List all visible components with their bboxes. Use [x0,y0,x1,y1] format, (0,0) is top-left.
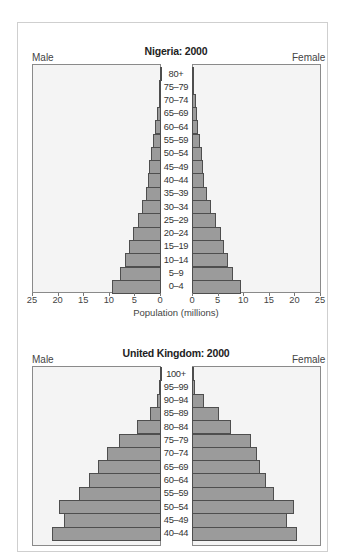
female-bar[interactable] [192,240,224,254]
male-bar[interactable] [148,173,161,187]
female-label: Female [292,52,325,63]
age-group-label: 70–74 [160,95,192,105]
female-bar[interactable] [192,267,233,281]
male-bar[interactable] [138,213,161,227]
female-bar[interactable] [192,67,194,81]
female-bar[interactable] [192,513,287,527]
age-group-label: 0–4 [160,281,192,291]
female-bar[interactable] [192,473,266,487]
x-tick-label: 0 [189,295,194,305]
female-bar[interactable] [192,107,197,121]
female-bar[interactable] [192,447,257,461]
male-bar[interactable] [133,227,161,241]
x-tick-label: 15 [264,295,274,305]
age-group-label: 85–89 [160,408,192,418]
female-bar[interactable] [192,213,216,227]
age-group-label: 40–44 [160,175,192,185]
x-tick-label: 5 [132,295,137,305]
female-bar[interactable] [192,200,211,214]
female-bar[interactable] [192,394,204,408]
male-bar[interactable] [120,267,161,281]
female-bar[interactable] [192,460,260,474]
female-bar[interactable] [192,253,228,267]
female-bar[interactable] [192,147,202,161]
female-bar[interactable] [192,94,196,108]
male-bar[interactable] [129,240,161,254]
age-group-label: 45–49 [160,515,192,525]
female-bar[interactable] [192,434,251,448]
age-group-label: 90–94 [160,395,192,405]
age-group-label: 65–69 [160,462,192,472]
age-group-label: 55–59 [160,135,192,145]
male-label: Male [32,52,54,63]
female-bar[interactable] [192,120,198,134]
x-tick-label: 20 [289,295,299,305]
male-bar[interactable] [89,473,161,487]
female-bar[interactable] [192,134,200,148]
x-tick-label: 25 [315,295,325,305]
x-tick-label: 0 [157,295,162,305]
female-bar[interactable] [192,80,194,94]
age-group-label: 25–29 [160,215,192,225]
age-group-label: 80–84 [160,422,192,432]
male-bar[interactable] [112,280,161,294]
male-bar[interactable] [125,253,161,267]
x-tick-label: 10 [104,295,114,305]
female-bar[interactable] [192,487,274,501]
x-tick-label: 20 [52,295,62,305]
age-group-label: 35–39 [160,188,192,198]
age-group-label: 60–64 [160,475,192,485]
male-bar[interactable] [64,513,161,527]
female-bar[interactable] [192,500,294,514]
male-label: Male [32,354,54,365]
female-bar[interactable] [192,420,231,434]
age-group-label: 40–44 [160,528,192,538]
age-group-label: 80+ [160,69,192,79]
x-tick-label: 25 [27,295,37,305]
female-bar[interactable] [192,407,219,421]
x-axis-label: Population (millions) [0,307,345,318]
x-tick-label: 5 [215,295,220,305]
male-bar[interactable] [119,434,161,448]
male-bar[interactable] [79,487,161,501]
male-bar[interactable] [59,500,161,514]
male-bar[interactable] [98,460,161,474]
age-group-label: 55–59 [160,488,192,498]
age-group-label: 45–49 [160,162,192,172]
female-bar[interactable] [192,280,241,294]
female-bar[interactable] [192,380,195,394]
age-group-label: 50–54 [160,148,192,158]
age-group-label: 15–19 [160,241,192,251]
age-group-label: 100+ [160,369,192,379]
age-group-label: 30–34 [160,202,192,212]
male-bar[interactable] [137,420,161,434]
female-bar[interactable] [192,527,297,541]
age-group-label: 5–9 [160,268,192,278]
age-group-label: 20–24 [160,228,192,238]
female-bar[interactable] [192,227,221,241]
female-label: Female [292,354,325,365]
female-bar[interactable] [192,173,204,187]
age-group-label: 65–69 [160,108,192,118]
female-bar[interactable] [192,367,194,381]
female-bar[interactable] [192,187,207,201]
age-group-label: 70–74 [160,448,192,458]
male-bar[interactable] [146,187,161,201]
female-bar[interactable] [192,160,203,174]
age-group-label: 60–64 [160,122,192,132]
age-group-label: 50–54 [160,502,192,512]
x-tick-label: 10 [238,295,248,305]
male-bar[interactable] [107,447,161,461]
x-tick-label: 15 [78,295,88,305]
age-group-label: 95–99 [160,382,192,392]
male-bar[interactable] [52,527,161,541]
age-group-label: 75–79 [160,82,192,92]
male-bar[interactable] [142,200,161,214]
age-group-label: 75–79 [160,435,192,445]
age-group-label: 10–14 [160,255,192,265]
